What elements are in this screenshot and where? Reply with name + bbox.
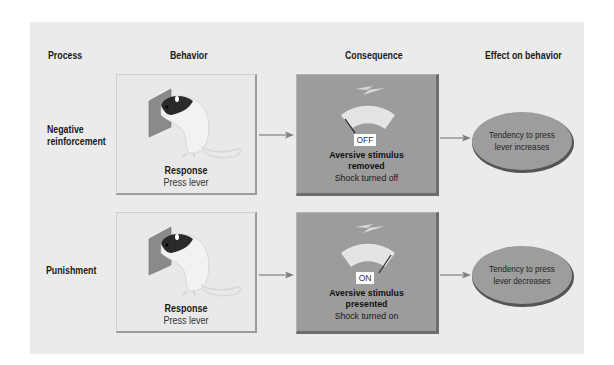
- lightning-bolt-icon: [355, 224, 385, 233]
- effect-text-line: Tendency to press: [477, 129, 567, 141]
- rat-pressing-lever-icon: [147, 87, 247, 161]
- header-process: Process: [48, 50, 82, 61]
- rat-pressing-lever-icon: [147, 225, 247, 299]
- consequence-subtitle: Shock turned off: [303, 172, 431, 183]
- shock-gauge-off-icon: [333, 81, 403, 137]
- process-label-line: reinforcement: [47, 136, 106, 148]
- consequence-title: Aversive stimulus presented: [303, 287, 431, 309]
- header-consequence: Consequence: [345, 50, 403, 61]
- effect-text-line: Tendency to press: [477, 263, 567, 275]
- effect-ellipse-row1: Tendency to press lever increases: [472, 112, 572, 170]
- arrow-right-icon: [440, 133, 472, 143]
- behavior-subtitle: Press lever: [124, 177, 248, 188]
- lightning-bolt-icon: [355, 86, 385, 95]
- consequence-title-line: Aversive stimulus: [303, 287, 431, 298]
- consequence-title-line: removed: [303, 160, 431, 171]
- behavior-subtitle: Press lever: [124, 315, 248, 326]
- effect-text: Tendency to press lever increases: [477, 129, 567, 153]
- shock-gauge-on-icon: [333, 219, 403, 275]
- behavior-box-row1: Response Press lever: [116, 74, 257, 195]
- process-label-line: Negative: [47, 124, 106, 136]
- process-label-negative-reinforcement: Negative reinforcement: [47, 124, 106, 148]
- arrow-right-icon: [440, 270, 472, 280]
- arrow-right-icon: [259, 270, 295, 280]
- behavior-box-row2: Response Press lever: [116, 212, 257, 333]
- consequence-title-line: presented: [303, 298, 431, 309]
- consequence-title: Aversive stimulus removed: [303, 149, 431, 171]
- effect-ellipse-row2: Tendency to press lever decreases: [472, 246, 572, 304]
- behavior-title: Response: [124, 165, 248, 176]
- switch-state-label: OFF: [354, 134, 376, 146]
- process-label-line: Punishment: [46, 265, 96, 277]
- consequence-box-row2: ON Aversive stimulus presented Shock tur…: [296, 212, 439, 334]
- switch-state-label: ON: [356, 272, 374, 284]
- behavior-title: Response: [124, 303, 248, 314]
- consequence-title-line: Aversive stimulus: [303, 149, 431, 160]
- process-label-punishment: Punishment: [46, 265, 96, 277]
- arrow-right-icon: [259, 130, 295, 140]
- consequence-subtitle: Shock turned on: [303, 310, 431, 321]
- effect-text-line: lever increases: [477, 141, 567, 153]
- header-behavior: Behavior: [170, 50, 208, 61]
- effect-text-line: lever decreases: [477, 275, 567, 287]
- effect-text: Tendency to press lever decreases: [477, 263, 567, 287]
- header-effect: Effect on behavior: [485, 50, 562, 61]
- consequence-box-row1: OFF Aversive stimulus removed Shock turn…: [296, 74, 439, 196]
